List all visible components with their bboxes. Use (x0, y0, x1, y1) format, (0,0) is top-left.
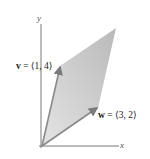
x-axis-label: x (120, 141, 124, 150)
vector-v-equals: = (21, 61, 31, 71)
vector-w-label: w = ⟨3, 2⟩ (98, 111, 137, 121)
parallelogram-region (42, 28, 116, 146)
parallelogram-diagram (0, 0, 150, 159)
vector-v-label: v = ⟨1, 4⟩ (16, 62, 53, 72)
vector-w-equals: = (105, 110, 115, 120)
vector-v-components: ⟨1, 4⟩ (31, 61, 53, 71)
vector-w-components: ⟨3, 2⟩ (115, 110, 137, 120)
vector-w-name: w (98, 110, 105, 120)
y-axis-label: y (37, 14, 41, 23)
